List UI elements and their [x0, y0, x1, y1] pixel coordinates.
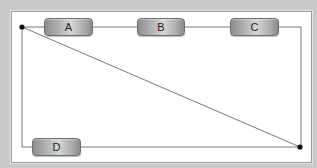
node-d-label: D [53, 141, 61, 153]
node-a: A [44, 18, 93, 36]
node-b-label: B [157, 21, 164, 33]
node-a-label: A [65, 21, 72, 33]
node-d: D [32, 138, 81, 156]
junction-top-left [19, 24, 24, 29]
node-c-label: C [251, 21, 259, 33]
diagonal-wire [22, 27, 300, 147]
node-b: B [137, 18, 185, 36]
node-c: C [230, 18, 279, 36]
junction-bottom-right [297, 144, 302, 149]
